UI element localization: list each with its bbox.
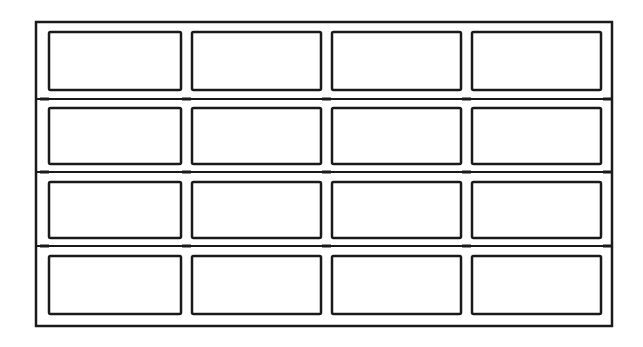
door-panel — [472, 256, 601, 314]
door-panel — [472, 182, 601, 238]
door-panel — [192, 32, 321, 90]
door-panel — [192, 108, 321, 164]
door-panel — [332, 108, 461, 164]
hinge-mark — [40, 98, 49, 101]
door-panel — [332, 182, 461, 238]
door-panel — [192, 256, 321, 314]
hinge-mark — [182, 171, 191, 174]
door-frame — [36, 22, 612, 326]
hinge-mark — [182, 245, 191, 248]
hinge-mark — [182, 98, 191, 101]
garage-door-diagram — [0, 0, 643, 347]
hinge-mark — [322, 171, 331, 174]
door-panel — [472, 32, 601, 90]
door-panel — [192, 182, 321, 238]
hinge-mark — [462, 171, 471, 174]
hinge-mark — [40, 245, 49, 248]
door-panel — [472, 108, 601, 164]
hinge-mark — [322, 98, 331, 101]
hinge-mark — [603, 98, 612, 101]
hinge-mark — [603, 245, 612, 248]
hinge-mark — [40, 171, 49, 174]
door-panel — [49, 108, 181, 164]
hinge-mark — [462, 98, 471, 101]
door-panel — [332, 32, 461, 90]
hinge-mark — [462, 245, 471, 248]
door-panel — [49, 182, 181, 238]
hinge-mark — [322, 245, 331, 248]
hinge-mark — [603, 171, 612, 174]
door-panel — [49, 256, 181, 314]
door-panel — [332, 256, 461, 314]
door-panel — [49, 32, 181, 90]
